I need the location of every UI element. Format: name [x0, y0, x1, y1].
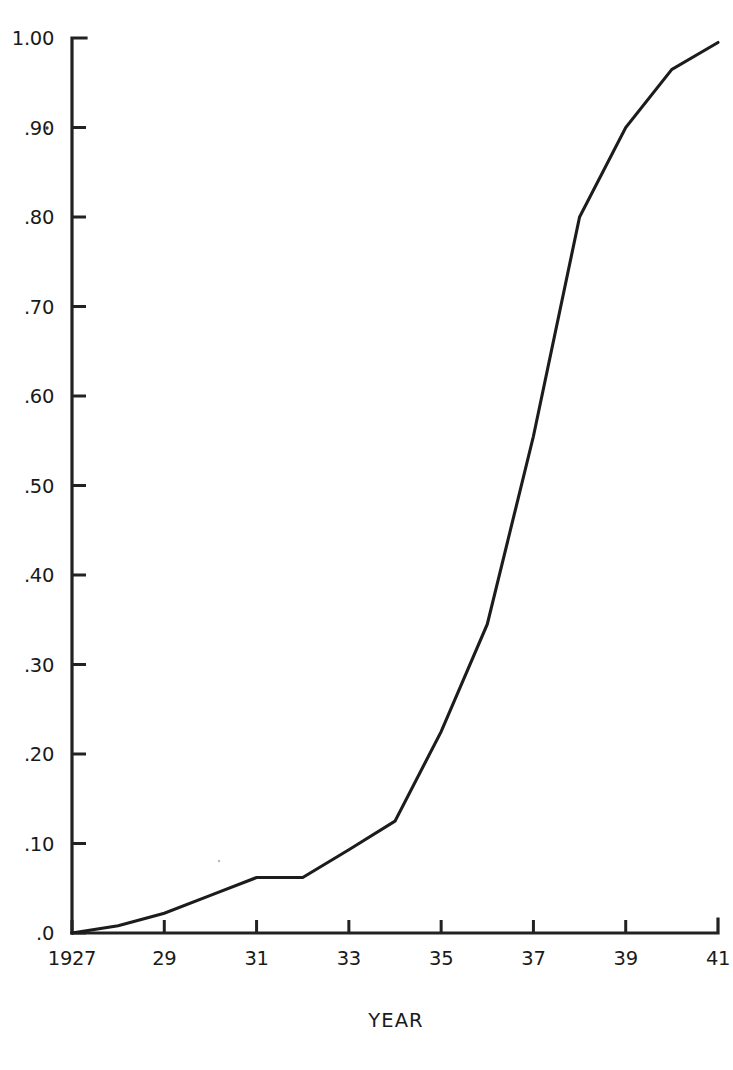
y-tick-label: .50 — [24, 475, 54, 498]
y-axis-ticks: .0.10.20.30.40.50.60.70.80.901.00 — [12, 27, 86, 945]
y-tick-label: .10 — [24, 833, 54, 856]
y-tick-label: .40 — [24, 564, 54, 587]
y-tick-label: .60 — [24, 385, 54, 408]
x-tick-label: 31 — [244, 947, 268, 970]
y-tick-label: .80 — [24, 206, 54, 229]
y-tick-label: .70 — [24, 296, 54, 319]
x-tick-label: 33 — [337, 947, 361, 970]
y-tick-label: 1.00 — [12, 27, 54, 50]
x-axis-ticks: 192729313335373941 — [48, 920, 730, 970]
x-tick-label: 39 — [614, 947, 638, 970]
scan-speck — [218, 860, 220, 862]
y-tick-label: .30 — [24, 654, 54, 677]
x-tick-label: 41 — [706, 947, 730, 970]
data-series-line — [72, 42, 718, 933]
x-tick-label: 1927 — [48, 947, 96, 970]
y-tick-label: .90 — [24, 117, 54, 140]
x-tick-label: 29 — [152, 947, 176, 970]
chart-figure: .0.10.20.30.40.50.60.70.80.901.00 192729… — [0, 0, 733, 1070]
x-tick-label: 35 — [429, 947, 453, 970]
line-chart-plot: .0.10.20.30.40.50.60.70.80.901.00 192729… — [0, 0, 733, 1070]
axes-group — [72, 38, 718, 933]
y-tick-label: .0 — [36, 922, 54, 945]
x-tick-label: 37 — [521, 947, 545, 970]
x-axis-line — [72, 919, 718, 933]
x-axis-title: YEAR — [367, 1009, 424, 1032]
scan-speck — [45, 126, 48, 129]
y-tick-label: .20 — [24, 743, 54, 766]
